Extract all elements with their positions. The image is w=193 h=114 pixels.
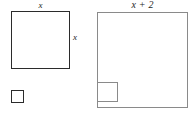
small-square-right-label: x bbox=[73, 33, 77, 42]
large-square-top-label: x + 2 bbox=[97, 0, 188, 10]
small-square-outline bbox=[11, 11, 70, 69]
small-square-top-label: x bbox=[0, 1, 81, 10]
small-square-right-angle-icon bbox=[11, 90, 24, 103]
geometry-figure: x x x + 2 bbox=[0, 0, 193, 114]
large-square-right-angle-icon bbox=[97, 82, 118, 102]
